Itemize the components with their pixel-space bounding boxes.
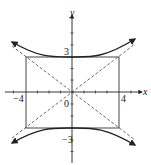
hyperbola-diagram: y x 3 −3 −4 4 0 <box>0 0 151 165</box>
diagram-canvas: y x 3 −3 −4 4 0 <box>0 0 151 165</box>
origin-label: 0 <box>64 98 69 109</box>
hyperbola-lower-branch <box>12 128 135 145</box>
y-tick-label-pos3: 3 <box>64 46 69 57</box>
asymptote-negative <box>12 46 135 140</box>
y-axis-label: y <box>69 7 75 18</box>
x-axis-label: x <box>142 86 148 97</box>
x-tick-label-neg4: −4 <box>13 93 24 104</box>
hyperbola-upper-branch <box>12 39 135 57</box>
y-tick-label-neg3: −3 <box>62 134 73 145</box>
x-tick-label-pos4: 4 <box>121 93 126 104</box>
asymptote-positive <box>12 44 135 138</box>
